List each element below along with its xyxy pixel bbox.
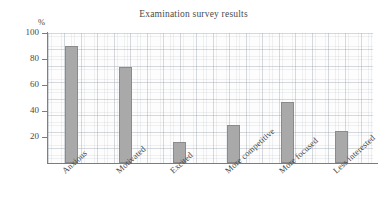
- y-axis-tick-mark: [42, 137, 48, 138]
- plot-area: [48, 33, 373, 163]
- bar: [119, 67, 132, 163]
- chart-screenshot: Examination survey results % 10080604020…: [0, 0, 387, 222]
- x-axis-line: [47, 163, 378, 164]
- y-axis-tick-label: 80: [0, 54, 39, 63]
- y-axis-tick-label: 20: [0, 132, 39, 141]
- y-axis-tick-label: 60: [0, 80, 39, 89]
- y-axis-tick-mark: [42, 59, 48, 60]
- y-axis-unit-label: %: [38, 17, 45, 27]
- y-axis-line: [47, 32, 48, 164]
- y-axis-tick-mark: [42, 33, 48, 34]
- bar: [65, 46, 78, 163]
- y-axis-tick-label: 100: [0, 28, 39, 37]
- y-axis-tick-mark: [42, 85, 48, 86]
- y-axis-tick-mark: [42, 111, 48, 112]
- y-axis-tick-label: 40: [0, 106, 39, 115]
- chart-title: Examination survey results: [0, 9, 387, 19]
